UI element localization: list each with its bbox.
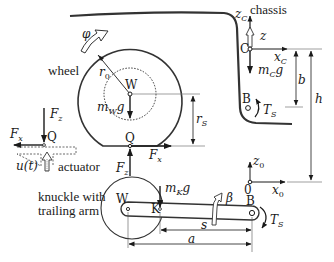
phi-label: φ: [82, 28, 90, 40]
point-W-knuckle: W: [116, 193, 128, 205]
quarter-car-diagram: chassis wheel actuator knuckle with trai…: [0, 0, 334, 262]
knuckle-label-line2: trailing arm: [38, 204, 99, 217]
Fx-label-contact: Fx: [149, 149, 162, 164]
trailing-arm: [121, 202, 259, 220]
a-label: a: [188, 233, 195, 245]
beta-label: β: [226, 192, 233, 204]
Fz-label-left: Fz: [50, 108, 63, 123]
TS-label-chassis: TS: [263, 104, 277, 119]
point-Q-contact: Q: [125, 132, 135, 144]
TS-label-arm: TS: [270, 214, 284, 229]
h-label: h: [315, 93, 323, 105]
point-K: K: [151, 203, 160, 215]
point-B-arm: B: [246, 195, 255, 207]
rS-label: rS: [196, 113, 207, 128]
z-label: z: [260, 30, 266, 42]
wheel-label: wheel: [48, 64, 79, 77]
r0-label: r0: [99, 66, 110, 81]
s-label: s: [201, 219, 207, 231]
mKg-label: mKg: [165, 182, 190, 197]
point-W-wheel: W: [125, 79, 137, 91]
actuator-label: actuator: [58, 160, 100, 173]
zC-label: zC: [235, 8, 247, 23]
x0-label: x0: [272, 184, 284, 199]
mWg-label: mWg: [97, 101, 124, 116]
z0-label: z0: [253, 155, 264, 170]
Fx-label-left: Fx: [10, 128, 23, 143]
Fz-label-contact: Fz: [116, 162, 129, 177]
chassis-label: chassis: [250, 3, 287, 16]
point-B-chassis: B: [242, 93, 251, 105]
mCg-label: mCg: [258, 64, 283, 79]
point-Q-left: Q: [47, 131, 57, 143]
u-t-label: u(t): [16, 160, 38, 172]
point-C: C: [240, 43, 249, 55]
b-label: b: [298, 74, 306, 86]
knuckle-label-line1: knuckle with: [38, 190, 106, 203]
